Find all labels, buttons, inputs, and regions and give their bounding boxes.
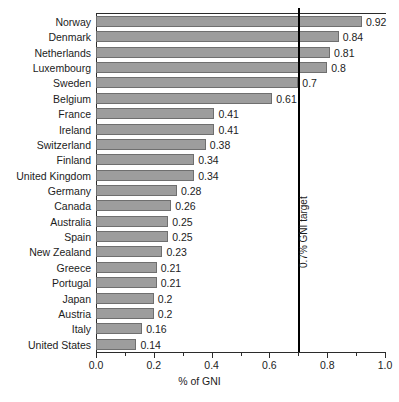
x-tick-label: 0.0 [89, 359, 104, 371]
bar [96, 108, 214, 119]
category-label: Finland [57, 152, 91, 168]
bar-value-label: 0.2 [158, 306, 173, 322]
x-tick-minor [298, 352, 299, 356]
bar-value-label: 0.25 [172, 229, 192, 245]
x-tick-major [212, 352, 213, 358]
bar [96, 93, 272, 104]
bar [96, 31, 339, 42]
bar-value-label: 0.14 [140, 337, 160, 353]
bar-value-label: 0.81 [334, 45, 354, 61]
bar-value-label: 0.61 [276, 91, 296, 107]
category-label: Portugal [52, 275, 91, 291]
bar-value-label: 0.23 [166, 244, 186, 260]
bar [96, 277, 157, 288]
bar [96, 170, 194, 181]
bar-value-label: 0.2 [158, 291, 173, 307]
x-tick-major [96, 352, 97, 358]
bar-value-label: 0.84 [343, 29, 363, 45]
bar-value-label: 0.41 [218, 122, 238, 138]
category-label: Italy [72, 321, 91, 337]
bar [96, 77, 298, 88]
category-label: Denmark [48, 29, 91, 45]
plot-area: Norway0.92Denmark0.84Netherlands0.81Luxe… [96, 14, 385, 352]
category-label: Netherlands [34, 45, 91, 61]
bar-row: Canada0.26 [96, 198, 385, 214]
bar [96, 293, 154, 304]
bar [96, 231, 168, 242]
bar-row: Australia0.25 [96, 214, 385, 230]
bar [96, 323, 142, 334]
bar-value-label: 0.34 [198, 168, 218, 184]
bar-row: Netherlands0.81 [96, 45, 385, 61]
bar-row: Ireland0.41 [96, 122, 385, 138]
category-label: Japan [62, 291, 91, 307]
bar [96, 124, 214, 135]
bar-row: Norway0.92 [96, 14, 385, 30]
bar [96, 262, 157, 273]
x-tick-major [269, 352, 270, 358]
bar [96, 216, 168, 227]
bar [96, 154, 194, 165]
bar-row: Japan0.2 [96, 291, 385, 307]
bar-value-label: 0.28 [181, 183, 201, 199]
x-tick-label: 0.4 [204, 359, 219, 371]
bar [96, 339, 136, 350]
x-axis-ticks: 0.00.20.40.60.81.0 [96, 352, 386, 376]
bar [96, 308, 154, 319]
x-tick-label: 0.6 [262, 359, 277, 371]
x-tick-major [327, 352, 328, 358]
bar [96, 16, 362, 27]
category-label: Australia [50, 214, 91, 230]
gni-bar-chart: Norway0.92Denmark0.84Netherlands0.81Luxe… [0, 0, 399, 402]
bar-value-label: 0.21 [161, 275, 181, 291]
bar-value-label: 0.34 [198, 152, 218, 168]
category-label: Belgium [53, 91, 91, 107]
category-label: Spain [64, 229, 91, 245]
bar-value-label: 0.16 [146, 321, 166, 337]
bar-row: Germany0.28 [96, 183, 385, 199]
gni-target-label: 0.7% GNI target [298, 196, 309, 268]
x-tick-minor [125, 352, 126, 356]
category-label: Luxembourg [33, 60, 91, 76]
bar [96, 246, 162, 257]
x-tick-label: 0.8 [320, 359, 335, 371]
x-tick-major [154, 352, 155, 358]
category-label: New Zealand [29, 244, 91, 260]
bar-value-label: 0.41 [218, 106, 238, 122]
x-tick-label: 1.0 [378, 359, 393, 371]
bar-row: United States0.14 [96, 337, 385, 353]
category-label: Canada [54, 198, 91, 214]
bar-row: Greece0.21 [96, 260, 385, 276]
category-label: Ireland [59, 122, 91, 138]
bar-row: France0.41 [96, 106, 385, 122]
bar-row: Luxembourg0.8 [96, 60, 385, 76]
category-label: France [58, 106, 91, 122]
bar [96, 185, 177, 196]
bar-value-label: 0.25 [172, 214, 192, 230]
bar-row: Switzerland0.38 [96, 137, 385, 153]
bar-value-label: 0.92 [366, 14, 386, 30]
bar-value-label: 0.7 [302, 75, 317, 91]
category-label: United States [28, 337, 91, 353]
category-label: Austria [58, 306, 91, 322]
bar-value-label: 0.38 [210, 137, 230, 153]
gni-target-top-tick [298, 8, 299, 14]
category-label: Sweden [53, 75, 91, 91]
x-tick-minor [356, 352, 357, 356]
bar-value-label: 0.21 [161, 260, 181, 276]
bar-row: Finland0.34 [96, 152, 385, 168]
category-label: Norway [55, 14, 91, 30]
bar-row: Sweden0.7 [96, 75, 385, 91]
x-tick-minor [241, 352, 242, 356]
bar-row: United Kingdom0.34 [96, 168, 385, 184]
bar-value-label: 0.8 [331, 60, 346, 76]
bar-row: Austria0.2 [96, 306, 385, 322]
x-axis-title: % of GNI [0, 375, 399, 387]
bar-row: Belgium0.61 [96, 91, 385, 107]
category-label: Greece [57, 260, 91, 276]
x-tick-minor [183, 352, 184, 356]
bar [96, 200, 171, 211]
x-tick-major [385, 352, 386, 358]
gni-target-line [298, 14, 299, 352]
bar [96, 139, 206, 150]
